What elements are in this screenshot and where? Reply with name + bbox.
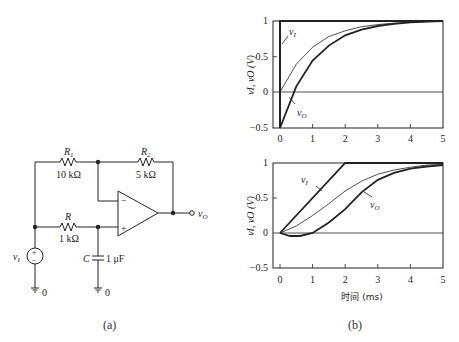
bottom-plot: vI vO 1 0.5 0 −0.5 0 1 2 3 4 5 vI, vO (V… bbox=[245, 157, 446, 302]
svg-text:1: 1 bbox=[263, 15, 268, 26]
r1-label: R1 bbox=[63, 146, 74, 159]
c-value: 1 μF bbox=[106, 253, 125, 264]
svg-text:0.5: 0.5 bbox=[256, 192, 269, 203]
c-label: C bbox=[83, 253, 90, 264]
svg-text:1: 1 bbox=[310, 133, 315, 144]
opamp-plus: + bbox=[121, 223, 127, 234]
bottom-ylabel: vI, vO (V) bbox=[245, 195, 257, 235]
svg-text:0: 0 bbox=[263, 227, 268, 238]
bottom-vo-label: vO bbox=[370, 199, 380, 212]
top-plot: vI vO 1 0.5 0 −0.5 0 1 2 3 4 5 vI, vO (V… bbox=[245, 15, 446, 144]
svg-text:−0.5: −0.5 bbox=[250, 122, 268, 133]
svg-text:5: 5 bbox=[441, 274, 446, 285]
source-minus: − bbox=[32, 256, 37, 265]
resistor-r bbox=[60, 223, 76, 231]
r2-label: R2 bbox=[140, 146, 151, 159]
r-label: R bbox=[64, 211, 71, 222]
r2-value: 5 kΩ bbox=[136, 169, 156, 180]
svg-text:1: 1 bbox=[263, 157, 268, 168]
r1-value: 10 kΩ bbox=[56, 169, 81, 180]
svg-text:4: 4 bbox=[408, 133, 413, 144]
svg-text:0: 0 bbox=[263, 86, 268, 97]
svg-text:4: 4 bbox=[408, 274, 413, 285]
resistor-r1 bbox=[60, 158, 76, 166]
svg-text:−0.5: −0.5 bbox=[250, 262, 268, 273]
svg-text:5: 5 bbox=[441, 133, 446, 144]
output-label: vO bbox=[198, 208, 208, 221]
figure: R1 10 kΩ R2 5 kΩ R 1 kΩ C 1 μF vI + − − … bbox=[0, 0, 459, 342]
svg-text:0: 0 bbox=[278, 133, 283, 144]
top-ylabel: vI, vO (V) bbox=[245, 54, 257, 94]
caption-b: (b) bbox=[348, 318, 362, 333]
svg-text:0.5: 0.5 bbox=[256, 51, 269, 62]
ground-label-1: 0 bbox=[42, 287, 47, 298]
bottom-vi-label: vI bbox=[301, 174, 308, 187]
svg-text:2: 2 bbox=[343, 274, 348, 285]
svg-text:2: 2 bbox=[343, 133, 348, 144]
r-value: 1 kΩ bbox=[59, 233, 79, 244]
svg-text:3: 3 bbox=[375, 274, 380, 285]
top-vi-label: vI bbox=[289, 26, 296, 39]
opamp-minus: − bbox=[121, 195, 127, 206]
svg-text:1: 1 bbox=[310, 274, 315, 285]
xlabel: 时间 (ms) bbox=[341, 291, 382, 302]
resistor-r2 bbox=[138, 158, 154, 166]
svg-text:3: 3 bbox=[375, 133, 380, 144]
source-label: vI bbox=[13, 251, 20, 264]
top-vo-label: vO bbox=[297, 107, 307, 120]
svg-text:0: 0 bbox=[278, 274, 283, 285]
ground-label-2: 0 bbox=[105, 287, 110, 298]
caption-a: (a) bbox=[103, 318, 116, 333]
output-terminal bbox=[190, 211, 195, 216]
circuit-diagram bbox=[27, 158, 194, 292]
